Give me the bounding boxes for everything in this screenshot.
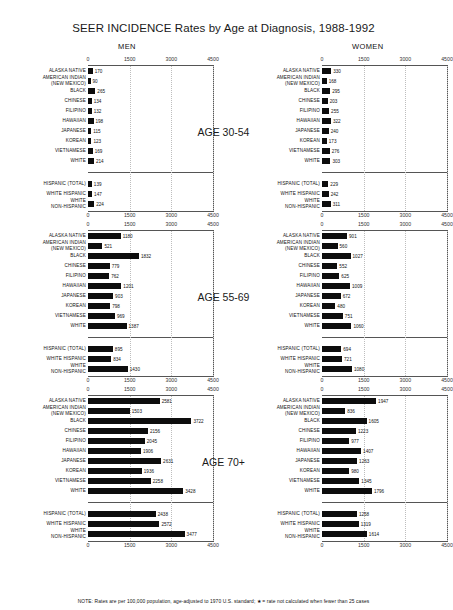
bar-value-label: 115 (93, 129, 100, 134)
panel-men-age-55-69: 0150030004500ALASKA NATIVE1180AMERICAN I… (0, 221, 213, 386)
category-label: ALASKA NATIVE (236, 68, 322, 74)
category-label: FILIPINO (2, 108, 88, 114)
bar-row: CHINESE1223 (322, 426, 447, 436)
bar-value-label: 895 (115, 347, 123, 352)
bar-value-label: 901 (349, 234, 357, 239)
category-label: CHINESE (2, 428, 88, 434)
axis-tick: 1500 (124, 221, 136, 227)
category-label: WHITE HISPANIC (2, 356, 88, 362)
plot-padding (322, 209, 447, 211)
bar (322, 108, 329, 114)
category-label: FILIPINO (236, 273, 322, 279)
axis-tick: 0 (87, 377, 90, 383)
bar-value-label: 1796 (374, 489, 384, 494)
bar (322, 293, 341, 299)
plot-padding (322, 539, 447, 541)
category-label: JAPANESE (2, 458, 88, 464)
bar (88, 398, 160, 404)
category-label: JAPANESE (2, 293, 88, 299)
value-axis: 0150030004500 (322, 212, 447, 221)
category-label: ALASKA NATIVE (2, 68, 88, 74)
bar-row: ALASKA NATIVE1180 (88, 231, 213, 241)
bar-row: FILIPINO255 (322, 106, 447, 116)
bar (88, 88, 95, 94)
bar-value-label: 229 (330, 182, 338, 187)
bar (322, 346, 341, 352)
bar-value-label: 147 (94, 192, 102, 197)
bar (88, 243, 102, 249)
bar-value-label: 2581 (162, 399, 172, 404)
axis-tick: 3000 (166, 386, 178, 392)
category-label: AMERICAN INDIAN (NEW MEXICO) (2, 405, 88, 416)
bar-value-label: 224 (96, 202, 104, 207)
footnote: NOTE: Rates are per 100,000 population, … (0, 598, 447, 604)
bar (88, 478, 151, 484)
axis-tick: 1500 (124, 56, 136, 62)
bar (322, 128, 329, 134)
category-label: WHITE NON-HISPANIC (2, 528, 88, 539)
bar-row: WHITE NON-HISPANIC311 (322, 199, 447, 209)
axis-tick: 0 (321, 542, 324, 548)
axis-tick: 4500 (441, 56, 453, 62)
plot-area: ALASKA NATIVE330AMERICAN INDIAN (NEW MEX… (322, 65, 448, 212)
category-label: WHITE HISPANIC (2, 191, 88, 197)
bar-row: WHITE303 (322, 156, 447, 166)
bar-row: HAWAIIAN1906 (88, 446, 213, 456)
bar-row: WHITE1796 (322, 486, 447, 496)
bar-value-label: 834 (113, 357, 121, 362)
bar-value-label: 1258 (359, 512, 369, 517)
bar (322, 323, 351, 329)
bar-row: ALASKA NATIVE170 (88, 66, 213, 76)
bar (88, 488, 183, 494)
age-block-age-55-69: 0150030004500ALASKA NATIVE1180AMERICAN I… (0, 221, 447, 386)
category-label: WHITE (236, 323, 322, 329)
bar-row: HAWAIIAN1407 (322, 446, 447, 456)
bar-row: ALASKA NATIVE330 (322, 66, 447, 76)
bar-row: ALASKA NATIVE2581 (88, 396, 213, 406)
bar (88, 458, 161, 464)
category-label: KOREAN (236, 138, 322, 144)
bar (322, 253, 351, 259)
bar-value-label: 1936 (144, 469, 154, 474)
category-label: VIETNAMESE (236, 313, 322, 319)
panel-men-age-30-54: 0150030004500ALASKA NATIVE170AMERICAN IN… (0, 56, 213, 221)
bar (88, 118, 94, 124)
category-label: AMERICAN INDIAN (NEW MEXICO) (236, 405, 322, 416)
axis-tick: 4500 (207, 212, 219, 218)
bar-value-label: 560 (340, 244, 348, 249)
panel-women-age-30-54: 0150030004500ALASKA NATIVE330AMERICAN IN… (234, 56, 447, 221)
bar-row: WHITE1387 (88, 321, 213, 331)
category-label: BLACK (2, 88, 88, 94)
bar-value-label: 2572 (161, 522, 171, 527)
axis-tick: 4500 (207, 56, 219, 62)
bar-row: WHITE HISPANIC721 (322, 354, 447, 364)
category-label: HAWAIIAN (2, 283, 88, 289)
bar-value-label: 2045 (147, 439, 157, 444)
category-label: JAPANESE (236, 128, 322, 134)
bar-row: AMERICAN INDIAN (NEW MEXICO)168 (322, 76, 447, 86)
bar (322, 478, 359, 484)
category-label: JAPANESE (2, 128, 88, 134)
category-label: WHITE NON-HISPANIC (236, 528, 322, 539)
category-label: JAPANESE (236, 293, 322, 299)
bar (88, 98, 92, 104)
category-label: HISPANIC (TOTAL) (2, 511, 88, 517)
bar-row: WHITE1060 (322, 321, 447, 331)
axis-tick: 3000 (400, 221, 412, 227)
value-axis: 0150030004500 (88, 377, 213, 386)
category-label: AMERICAN INDIAN (NEW MEXICO) (236, 75, 322, 86)
bar (88, 313, 115, 319)
bar-row: AMERICAN INDIAN (NEW MEXICO)90 (88, 76, 213, 86)
axis-tick: 1500 (124, 377, 136, 383)
category-label: WHITE (2, 488, 88, 494)
category-label: FILIPINO (236, 108, 322, 114)
gridline (213, 66, 214, 211)
bar-value-label: 1614 (369, 532, 379, 537)
axis-tick: 1500 (358, 542, 370, 548)
bar (322, 366, 352, 372)
panel-men-age-70-: 0150030004500ALASKA NATIVE2581AMERICAN I… (0, 386, 213, 551)
value-axis: 0150030004500 (322, 377, 447, 386)
plot-area: ALASKA NATIVE2581AMERICAN INDIAN (NEW ME… (88, 395, 214, 542)
bar-row: CHINESE134 (88, 96, 213, 106)
bar-value-label: 295 (332, 89, 340, 94)
